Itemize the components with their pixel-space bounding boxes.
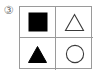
grid-cell-bottom-left bbox=[20, 38, 56, 70]
filled-triangle-icon bbox=[27, 45, 48, 64]
grid-cell-bottom-right bbox=[56, 38, 93, 70]
outline-circle-icon bbox=[65, 44, 85, 64]
filled-square-icon bbox=[28, 12, 48, 32]
item-number-label: ③ bbox=[2, 4, 15, 17]
grid-cell-top-right bbox=[56, 7, 93, 38]
grid-cell-top-left bbox=[20, 7, 56, 38]
outline-triangle-icon bbox=[64, 13, 85, 32]
figure-container: ③ bbox=[0, 0, 98, 75]
shape-grid bbox=[19, 6, 92, 69]
